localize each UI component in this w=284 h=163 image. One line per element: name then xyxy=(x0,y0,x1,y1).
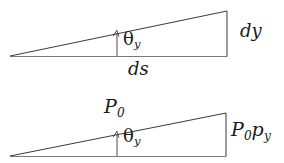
label-dy: dy xyxy=(240,22,262,40)
triangle-top-hypotenuse-line xyxy=(10,11,227,56)
label-theta-y-bottom: θy xyxy=(123,127,140,145)
theta-glyph-bottom: θ xyxy=(123,125,134,146)
label-ds: ds xyxy=(128,60,149,78)
p0py-second-glyph: p xyxy=(252,118,264,140)
label-theta-y-top: θy xyxy=(123,30,140,48)
theta-subscript-top: y xyxy=(134,37,141,51)
triangle-top-shape xyxy=(10,11,227,57)
label-p0: P0 xyxy=(104,97,125,116)
triangle-top-angle-arrowhead-icon xyxy=(113,30,119,36)
theta-glyph-top: θ xyxy=(123,28,134,49)
theta-subscript-bottom: y xyxy=(134,134,141,148)
p0-base-glyph: P xyxy=(104,95,117,117)
p0-subscript-glyph: 0 xyxy=(117,106,125,120)
label-p0-py: P0py xyxy=(231,120,271,139)
p0py-first-subscript: 0 xyxy=(244,129,252,143)
figure-canvas: dy ds θy P0 θy P0py xyxy=(0,0,284,163)
p0py-second-subscript: y xyxy=(264,129,271,143)
p0py-first-glyph: P xyxy=(231,118,244,140)
